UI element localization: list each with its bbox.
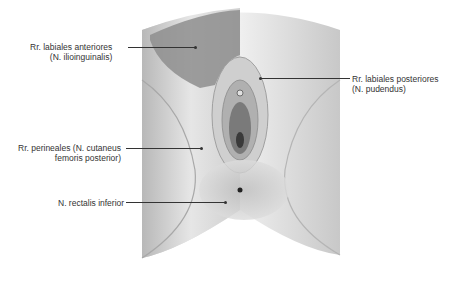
label-line: Rr. perineales (N. cutaneus	[18, 143, 121, 153]
label-line: Rr. labiales anteriores	[30, 42, 112, 52]
label-line: Rr. labiales posteriores	[352, 74, 438, 84]
leader-line	[260, 78, 350, 79]
label-rr-labiales-anteriores: Rr. labiales anteriores (N. ilioinguinal…	[30, 42, 112, 62]
leader-line	[126, 148, 202, 149]
label-line: (N. pudendus)	[352, 84, 438, 94]
label-line: (N. ilioinguinalis)	[30, 52, 112, 62]
label-n-rectalis-inferior: N. rectalis inferior	[58, 198, 124, 208]
label-rr-labiales-posteriores: Rr. labiales posteriores (N. pudendus)	[352, 74, 438, 94]
leader-dot	[194, 46, 197, 49]
label-rr-perineales: Rr. perineales (N. cutaneus femoris post…	[18, 143, 121, 163]
leader-dot	[224, 201, 227, 204]
region-rectal	[199, 160, 289, 220]
leader-dot	[200, 147, 203, 150]
leader-line	[128, 47, 196, 48]
leader-line	[126, 202, 226, 203]
leader-dot	[259, 77, 262, 80]
anatomical-figure: Rr. labiales anteriores (N. ilioinguinal…	[0, 0, 460, 284]
label-line: N. rectalis inferior	[58, 198, 124, 208]
label-line: femoris posterior)	[18, 153, 121, 163]
